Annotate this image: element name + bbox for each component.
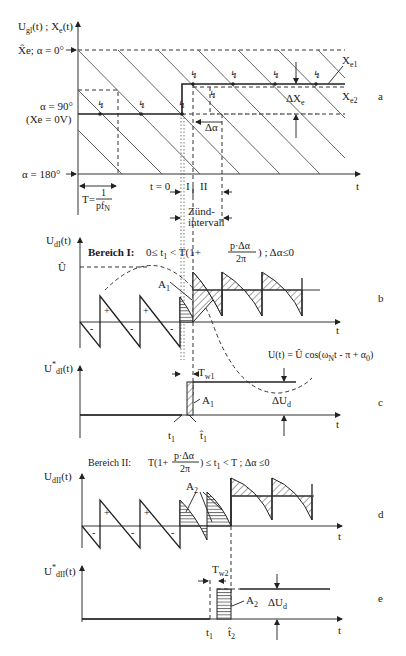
level-alpha-90: α = 90° <box>40 100 73 112</box>
minus-sign: - <box>92 527 95 538</box>
panel-c-x-label: t <box>336 418 339 430</box>
plus-sign: + <box>104 305 110 316</box>
area-a2-e-label: A2 <box>246 594 258 609</box>
delta-ud-e-label: ΔUd <box>268 596 287 611</box>
hatched-area-d <box>231 478 272 520</box>
t0-label: t = 0 <box>150 180 171 192</box>
delta-ud-label: ΔUd <box>272 394 291 409</box>
lightning-icon: ↯ <box>313 69 321 80</box>
thyristor-firing-diagram: ↯ ↯ ↯ ↯ ↯ ↯ ↯ ↯ Ugl(t) ; Xe(t) X̂e; α = … <box>0 0 406 656</box>
t2-hat-label: t̂2 <box>227 626 235 641</box>
region-ii-condition-left: T(1+ <box>148 457 168 469</box>
panel-b-y-label: UdI(t) <box>46 234 71 249</box>
period-label: T= <box>82 193 95 205</box>
panel-e: U*dII(t) Tw2 A2 ΔUd t1 t̂2 t e <box>44 563 383 641</box>
tw1-label: Tw1 <box>198 366 215 381</box>
lightning-icon: ↯ <box>190 69 198 80</box>
cosine-formula: U(t) = Û cos(ωNt - π + α0) <box>268 349 373 363</box>
panel-c-y-label: U*dI(t) <box>44 360 73 376</box>
minus-sign: - <box>171 527 174 538</box>
area-a1-c <box>187 382 193 415</box>
period-num: 1 <box>101 187 106 198</box>
panel-b-x-label: t <box>336 324 339 336</box>
area-a1-b <box>180 297 193 322</box>
region-i-title: Bereich I: <box>88 246 135 258</box>
region-ii-condition-right: ) ≤ t1 < T ; Δα ≤0 <box>200 457 269 471</box>
panel-c: U*dI(t) Tw1 A1 ΔUd t1 t̂1 t c <box>44 360 383 444</box>
lightning-icon: ↯ <box>97 99 105 110</box>
area-a2-label: A2 <box>186 480 198 495</box>
rectified-voltage-old-d <box>82 500 180 548</box>
panel-e-tag: e <box>378 592 383 604</box>
lightning-icon: ↯ <box>138 99 146 110</box>
region-ii-frac-den: 2π <box>180 463 190 474</box>
delta-alpha-label: Δα <box>205 121 218 133</box>
condition-frac-num: p·Δα <box>230 240 251 251</box>
area-a2-1 <box>180 500 207 540</box>
panel-e-x-label: t <box>338 624 341 636</box>
panel-a-y-label: Ugl(t) ; Xe(t) <box>18 20 73 35</box>
panel-d-y-label: UdII(t) <box>44 470 72 485</box>
plus-sign: + <box>104 507 110 518</box>
area-a2-e <box>217 589 231 619</box>
lightning-icon: ↯ <box>272 69 280 80</box>
panel-a-tag: a <box>378 90 383 102</box>
panel-d-tag: d <box>378 508 384 520</box>
panel-a-x-label: t <box>356 180 359 192</box>
xe1-label: Xe1 <box>342 54 358 69</box>
condition-frac-den: 2π <box>236 253 246 264</box>
period-den: pfN <box>96 200 110 213</box>
panel-e-y-label: U*dII(t) <box>44 563 76 579</box>
level-xe-zero: (Xe = 0V) <box>26 113 72 126</box>
region-i-label: I <box>186 180 190 192</box>
plus-sign: + <box>143 305 149 316</box>
panel-b: + + - - - UdI(t) Bereich I: 0≤ t1 < T(1+… <box>46 234 384 393</box>
region-ii-frac-num: p·Δα <box>174 450 195 461</box>
panel-d-x-label: t <box>338 530 341 542</box>
area-a2-2 <box>207 492 231 526</box>
delta-xe-label: ΔXe <box>286 92 305 107</box>
region-ii-label: II <box>200 180 208 192</box>
minus-sign: - <box>130 323 133 334</box>
region-ii-title: Bereich II: <box>88 457 131 468</box>
t1-label: t1 <box>168 429 175 444</box>
panel-a: ↯ ↯ ↯ ↯ ↯ ↯ ↯ ↯ Ugl(t) ; Xe(t) X̂e; α = … <box>18 20 383 395</box>
xe2-label: Xe2 <box>342 90 358 105</box>
minus-sign: - <box>90 323 93 334</box>
tw2-label: Tw2 <box>212 563 229 578</box>
panel-b-tag: b <box>378 292 384 304</box>
region-i-condition: 0≤ t1 < T(1+ <box>146 246 201 261</box>
minus-sign: - <box>131 527 134 538</box>
condition-tail: ) ; Δα≤0 <box>258 246 294 259</box>
area-a1-label: A1 <box>158 278 170 293</box>
panel-d: + + - - - UdII(t) Bereich II: T(1+ p·Δα … <box>44 450 384 608</box>
level-alpha-180: α = 180° <box>22 168 60 180</box>
firing-interval-label-2: intervall <box>188 216 225 228</box>
plus-sign: + <box>144 507 150 518</box>
lightning-icon: ↯ <box>230 69 238 80</box>
area-a1-c-label: A1 <box>202 394 214 409</box>
lightning-icon: ↯ <box>178 99 186 110</box>
peak-label: Û <box>58 261 66 273</box>
t1-hat-label: t̂1 <box>199 429 207 444</box>
panel-c-tag: c <box>378 396 383 408</box>
level-alpha-0: X̂e; α = 0° <box>18 44 64 56</box>
t1-e-label: t1 <box>206 626 213 641</box>
minus-sign: - <box>170 323 173 334</box>
